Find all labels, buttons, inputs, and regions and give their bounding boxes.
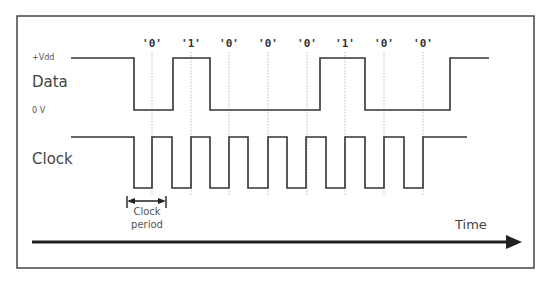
time-arrowhead-icon <box>506 235 522 249</box>
bit-label: '0' <box>374 37 394 50</box>
bit-label: '1' <box>181 37 201 50</box>
dimension-arrowhead-right <box>158 198 166 204</box>
clock-period-label-line2: period <box>131 219 163 230</box>
timing-diagram: '0' '1' '0' '0' '0' '1' '0' '0' +Vdd Dat… <box>0 0 548 285</box>
data-waveform <box>71 58 489 110</box>
bit-label: '1' <box>335 37 355 50</box>
data-label: Data <box>32 73 68 91</box>
vdd-label: +Vdd <box>32 53 54 62</box>
clock-waveform <box>71 137 467 188</box>
zero-volt-label: 0 V <box>32 106 46 115</box>
dimension-arrowhead-left <box>127 198 135 204</box>
clock-period-label-line1: Clock <box>133 206 160 217</box>
bit-label: '0' <box>297 37 317 50</box>
time-label: Time <box>454 217 487 232</box>
bit-label: '0' <box>413 37 433 50</box>
bit-label: '0' <box>219 37 239 50</box>
bit-labels: '0' '1' '0' '0' '0' '1' '0' '0' <box>142 37 433 50</box>
clock-label: Clock <box>32 150 73 168</box>
bit-label: '0' <box>142 37 162 50</box>
bit-label: '0' <box>258 37 278 50</box>
